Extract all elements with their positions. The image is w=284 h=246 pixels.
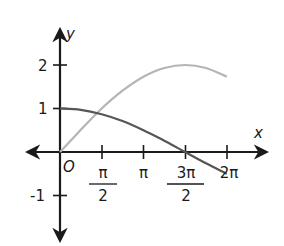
x-tick-label-3pi-over-2: 3π 2	[167, 164, 204, 205]
y-tick-label-1: 1	[38, 100, 48, 118]
x-tick-label-pi-over-2: π 2	[89, 164, 117, 205]
sine-curve	[60, 65, 227, 152]
svg-text:π: π	[98, 164, 107, 182]
x-tick-label-pi: π	[139, 164, 148, 182]
y-tick-label-2: 2	[38, 57, 48, 75]
function-graph: y x O 2 1 -1 π 2 π 3π 2 2π	[0, 0, 284, 246]
svg-text:2: 2	[181, 187, 191, 205]
y-axis-label: y	[65, 25, 76, 43]
origin-label: O	[63, 158, 75, 176]
y-tick-label-neg1: -1	[30, 187, 45, 205]
x-tick-label-2pi: 2π	[220, 164, 239, 182]
svg-text:3π: 3π	[177, 164, 196, 182]
svg-text:2: 2	[98, 187, 108, 205]
x-axis-label: x	[253, 124, 263, 142]
